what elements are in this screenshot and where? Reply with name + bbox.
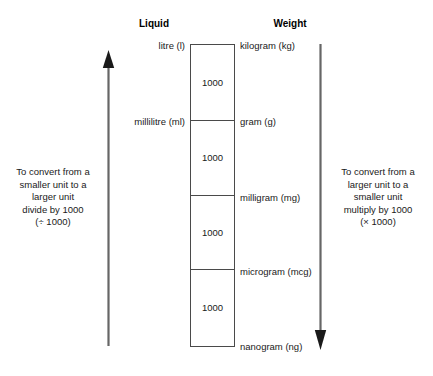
ladder-step: 1000 bbox=[191, 121, 234, 197]
ladder-step: 1000 bbox=[191, 270, 234, 346]
instruction-convert-smaller-to-larger: To convert from a smaller unit to a larg… bbox=[8, 166, 98, 229]
column-heading-liquid: Liquid bbox=[118, 18, 190, 29]
up-arrow-icon bbox=[100, 50, 117, 350]
unit-label-nanogram: nanogram (ng) bbox=[240, 341, 302, 352]
unit-label-milligram: milligram (mg) bbox=[240, 192, 300, 203]
instruction-convert-larger-to-smaller: To convert from a larger unit to a small… bbox=[330, 166, 426, 229]
conversion-ladder: 1000 1000 1000 1000 bbox=[190, 44, 235, 347]
unit-label-litre: litre (l) bbox=[159, 40, 185, 51]
column-heading-weight: Weight bbox=[238, 18, 342, 29]
ladder-step: 1000 bbox=[191, 196, 234, 270]
unit-label-kilogram: kilogram (kg) bbox=[240, 40, 295, 51]
unit-label-microgram: microgram (mcg) bbox=[240, 266, 312, 277]
down-arrow-icon bbox=[312, 42, 329, 350]
ladder-step: 1000 bbox=[191, 45, 234, 121]
unit-label-millilitre: millilitre (ml) bbox=[134, 116, 185, 127]
diagram-canvas: Liquid Weight litre (l) millilitre (ml) … bbox=[0, 0, 433, 376]
unit-label-gram: gram (g) bbox=[240, 116, 276, 127]
